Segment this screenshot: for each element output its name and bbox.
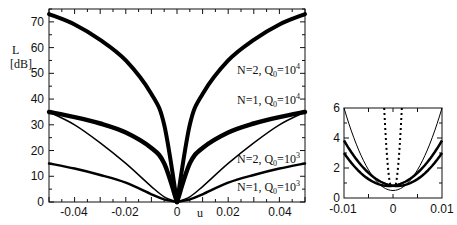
annotation-n2-q4: N=2, Q0=104 <box>237 62 300 79</box>
inset-curves <box>344 108 442 191</box>
main-y-tick-labels: 0 10 20 30 40 50 60 70 <box>31 15 45 209</box>
svg-text:0: 0 <box>37 195 44 209</box>
svg-text:30: 30 <box>31 118 45 132</box>
svg-text:0: 0 <box>174 205 181 219</box>
main-x-tick-labels: -0.04 -0.02 0 0.02 0.04 <box>60 205 292 219</box>
figure: 0 10 20 30 40 50 60 70 L [dB] -0.04 -0.0… <box>0 0 457 225</box>
annotation-n1-q3: N=1, Q0=103 <box>237 179 300 196</box>
main-curves <box>49 14 305 202</box>
x-axis-label: u <box>197 206 203 220</box>
y-axis-label: L <box>12 43 19 57</box>
svg-text:70: 70 <box>31 15 45 29</box>
svg-text:0.02: 0.02 <box>216 205 240 219</box>
y-axis-unit: [dB] <box>10 57 32 71</box>
inset-y-tick-labels: 0 2 4 6 <box>333 101 340 205</box>
svg-text:N=2, Q0=103: N=2, Q0=103 <box>237 151 300 168</box>
svg-text:-0.01: -0.01 <box>329 202 357 216</box>
svg-text:-0.02: -0.02 <box>111 205 139 219</box>
svg-text:0.04: 0.04 <box>268 205 292 219</box>
annotation-n2-q3: N=2, Q0=103 <box>237 151 300 168</box>
svg-text:0.01: 0.01 <box>430 202 454 216</box>
svg-text:4: 4 <box>333 131 340 145</box>
annotation-n1-q4: N=1, Q0=104 <box>237 92 300 109</box>
svg-text:60: 60 <box>31 41 45 55</box>
svg-text:N=1, Q0=103: N=1, Q0=103 <box>237 179 300 196</box>
svg-text:10: 10 <box>31 169 45 183</box>
svg-text:N=2, Q0=104: N=2, Q0=104 <box>237 62 300 79</box>
svg-text:-0.04: -0.04 <box>60 205 88 219</box>
svg-text:50: 50 <box>31 66 45 80</box>
svg-text:40: 40 <box>31 92 45 106</box>
svg-text:0: 0 <box>390 202 397 216</box>
svg-text:N=1, Q0=104: N=1, Q0=104 <box>237 92 300 109</box>
svg-text:20: 20 <box>31 144 45 158</box>
svg-text:6: 6 <box>333 101 340 115</box>
svg-text:2: 2 <box>333 161 340 175</box>
inset-x-tick-labels: -0.01 0 0.01 <box>329 202 454 216</box>
